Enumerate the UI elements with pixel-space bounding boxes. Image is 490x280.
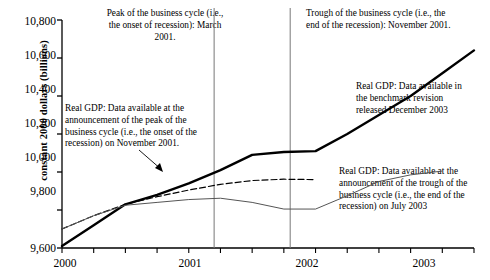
axes-group [62,20,474,248]
y-axis-ticks [57,20,62,248]
data-series [62,50,474,246]
series-line-0 [62,50,474,246]
series-line-2 [62,171,442,229]
nov2001-callout-arrow [139,150,163,172]
chart-figure: constant 2000 dollars (billions) 10,800 … [0,0,490,280]
event-lines [214,8,290,248]
chart-plot-area [0,0,490,280]
x-axis-ticks [62,248,474,253]
